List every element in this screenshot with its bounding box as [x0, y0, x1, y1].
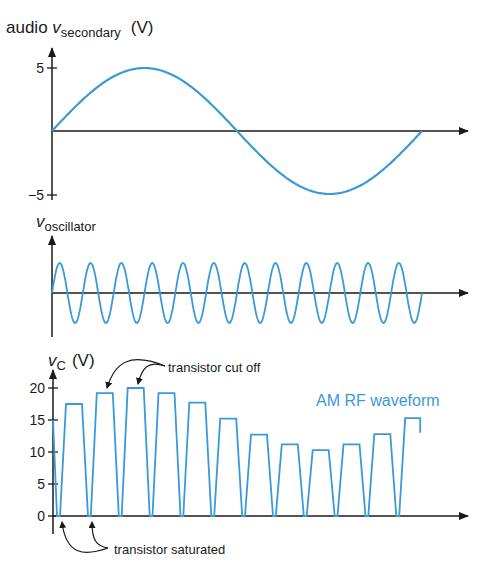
audio-tick-label-5: 5: [36, 60, 44, 76]
collector-tick-label: 5: [37, 476, 45, 492]
collector-tick-label: 20: [29, 380, 45, 396]
am-rf-waveform-label: AM RF waveform: [316, 392, 440, 409]
saturated-arrow-2: [92, 522, 108, 548]
collector-tick-label: 15: [29, 412, 45, 428]
am-modulation-diagram: audio vsecondary(V) 5 −5 voscillator vC(…: [0, 0, 494, 587]
saturated-arrow-1: [62, 522, 108, 552]
collector-axis-label: vC(V): [48, 351, 95, 373]
audio-tick-label-neg5: −5: [28, 187, 44, 203]
cutoff-annotation-label: transistor cut off: [168, 360, 261, 375]
oscillator-panel: voscillator: [36, 212, 468, 337]
oscillator-axis-label: voscillator: [36, 212, 96, 234]
audio-panel: audio vsecondary(V) 5 −5: [6, 18, 468, 203]
cutoff-arrow-2: [138, 364, 165, 384]
audio-axis-label: audio vsecondary(V): [6, 18, 153, 40]
collector-tick-label: 0: [37, 508, 45, 524]
saturated-annotation-label: transistor saturated: [114, 542, 225, 557]
collector-panel: vC(V) 20151050 AM RF waveform transistor…: [29, 351, 468, 557]
collector-tick-label: 10: [29, 444, 45, 460]
